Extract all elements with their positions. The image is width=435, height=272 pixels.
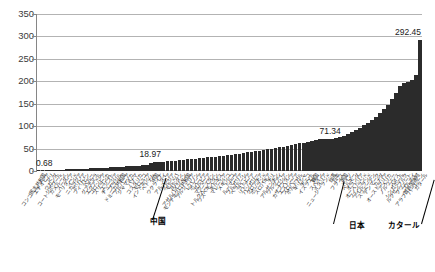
bar bbox=[238, 154, 241, 171]
bar bbox=[157, 162, 160, 171]
bar bbox=[258, 151, 261, 171]
bar bbox=[198, 158, 201, 171]
bar bbox=[214, 157, 217, 171]
y-axis-tick-label: 200 bbox=[4, 76, 34, 85]
bar bbox=[218, 156, 221, 171]
bar bbox=[318, 139, 321, 171]
bar bbox=[170, 161, 173, 171]
bar bbox=[254, 151, 257, 171]
bar bbox=[354, 130, 357, 171]
bar-series bbox=[37, 14, 422, 171]
bar bbox=[250, 152, 253, 171]
callout-label-japan: 日本 bbox=[349, 222, 365, 230]
bar bbox=[410, 80, 413, 171]
bar bbox=[306, 142, 309, 171]
bar bbox=[270, 149, 273, 171]
bar bbox=[418, 40, 421, 171]
bar bbox=[294, 144, 297, 171]
bar bbox=[286, 146, 289, 171]
y-axis-tick-label: 300 bbox=[4, 31, 34, 40]
bar bbox=[334, 138, 337, 171]
bar bbox=[406, 82, 409, 171]
bar bbox=[137, 166, 140, 171]
bar bbox=[302, 143, 305, 171]
annotation-japan-value: 71.34 bbox=[320, 127, 341, 136]
bar bbox=[390, 99, 393, 171]
bar bbox=[358, 128, 361, 171]
bar bbox=[141, 165, 144, 171]
annotation-china-value: 18.97 bbox=[140, 150, 161, 159]
bar bbox=[226, 155, 229, 171]
bar bbox=[274, 148, 277, 171]
bar bbox=[370, 120, 373, 171]
bar bbox=[322, 139, 325, 171]
bar bbox=[230, 155, 233, 171]
bar bbox=[382, 109, 385, 171]
bar bbox=[350, 132, 353, 171]
bar bbox=[242, 153, 245, 171]
y-axis-tick-label: 100 bbox=[4, 121, 34, 130]
bar bbox=[298, 143, 301, 171]
bar bbox=[282, 147, 285, 171]
bar bbox=[374, 117, 377, 171]
bar bbox=[210, 157, 213, 171]
bar bbox=[222, 156, 225, 171]
bar bbox=[202, 158, 205, 171]
bar bbox=[161, 162, 164, 171]
bar bbox=[246, 152, 249, 171]
bar bbox=[153, 162, 156, 171]
bar bbox=[266, 149, 269, 171]
bar bbox=[326, 139, 329, 171]
bar bbox=[133, 166, 136, 171]
bar bbox=[278, 147, 281, 171]
bar bbox=[290, 145, 293, 171]
bar bbox=[194, 159, 197, 171]
bar bbox=[125, 166, 128, 171]
bar bbox=[69, 169, 72, 171]
bar bbox=[314, 140, 317, 171]
leader-line-qatar bbox=[421, 180, 435, 224]
bar bbox=[149, 163, 152, 172]
bar bbox=[145, 165, 148, 171]
bar bbox=[414, 75, 417, 171]
bar bbox=[190, 159, 193, 171]
bar bbox=[330, 139, 333, 171]
bar bbox=[262, 150, 265, 171]
bar bbox=[174, 161, 177, 171]
bar bbox=[178, 160, 181, 171]
y-axis-tick-label: 50 bbox=[4, 144, 34, 153]
annotation-max-value: 292.45 bbox=[395, 28, 421, 37]
bar bbox=[362, 125, 365, 171]
bar bbox=[206, 157, 209, 171]
y-axis-tick-label: 150 bbox=[4, 99, 34, 108]
bar bbox=[366, 123, 369, 171]
bar bbox=[310, 141, 313, 171]
bar bbox=[182, 160, 185, 171]
bar bbox=[166, 161, 169, 171]
bar bbox=[402, 83, 405, 171]
bar bbox=[129, 166, 132, 171]
y-axis-tick-label: 250 bbox=[4, 54, 34, 63]
bar bbox=[342, 136, 345, 171]
y-axis-tick-label: 350 bbox=[4, 9, 34, 18]
bar bbox=[398, 86, 401, 171]
callout-label-qatar: カタール bbox=[388, 222, 420, 230]
bar bbox=[346, 134, 349, 171]
bar bbox=[386, 105, 389, 171]
annotation-min-value: 0.68 bbox=[36, 159, 53, 168]
y-axis-tick-label: 0 bbox=[4, 166, 34, 175]
bar bbox=[117, 167, 120, 171]
bar bbox=[234, 154, 237, 171]
bar bbox=[394, 93, 397, 171]
bar bbox=[121, 167, 124, 171]
bar bbox=[338, 137, 341, 171]
bar bbox=[186, 159, 189, 171]
bar bbox=[37, 170, 40, 171]
bar bbox=[378, 113, 381, 171]
